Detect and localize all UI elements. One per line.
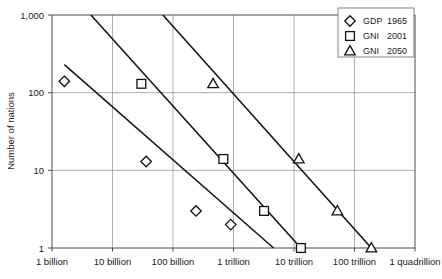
y-tick-label: 1 <box>39 243 44 254</box>
legend-marker-square <box>346 32 355 41</box>
x-tick-label: 1 quadrillion <box>389 256 440 267</box>
data-marker-square <box>137 79 146 88</box>
data-marker-square <box>219 155 228 164</box>
y-axis-tick-labels: 1,000100101 <box>20 10 44 254</box>
legend-label-name: GNI <box>363 31 379 41</box>
chart-figure: 1 billion10 billion100 billion1 trillion… <box>0 0 442 279</box>
trend-lines <box>64 15 371 248</box>
x-tick-label: 1 trillion <box>217 256 250 267</box>
legend-label-year: 2001 <box>387 31 407 41</box>
data-marker-diamond <box>59 76 70 87</box>
data-marker-triangle <box>208 78 219 87</box>
legend-label-name: GDP <box>363 16 383 26</box>
legend-label-name: GNI <box>363 46 379 56</box>
log-log-scatter-chart: 1 billion10 billion100 billion1 trillion… <box>0 0 442 279</box>
y-axis-title: Number of nations <box>5 92 16 170</box>
trend-line-diamond <box>64 65 273 248</box>
x-tick-label: 1 billion <box>36 256 68 267</box>
data-marker-triangle <box>293 154 304 163</box>
data-marker-diamond <box>191 206 202 217</box>
legend-label-year: 2050 <box>387 46 407 56</box>
x-tick-label: 10 billion <box>94 256 132 267</box>
data-marker-diamond <box>225 219 236 230</box>
x-tick-label: 100 trillion <box>333 256 376 267</box>
data-marker-diamond <box>141 156 152 167</box>
x-tick-label: 100 billion <box>152 256 195 267</box>
y-tick-label: 100 <box>28 87 44 98</box>
data-marker-square <box>260 207 269 216</box>
chart-legend: GDP1965GNI2001GNI2050 <box>338 8 414 57</box>
x-tick-label: 10 trillion <box>275 256 313 267</box>
y-axis-title-label: Number of nations <box>5 92 16 170</box>
legend-label-year: 1965 <box>387 16 407 26</box>
y-tick-label: 1,000 <box>20 10 44 21</box>
data-marker-square <box>296 244 305 253</box>
x-axis-tick-labels: 1 billion10 billion100 billion1 trillion… <box>36 256 441 267</box>
y-tick-label: 10 <box>33 165 44 176</box>
